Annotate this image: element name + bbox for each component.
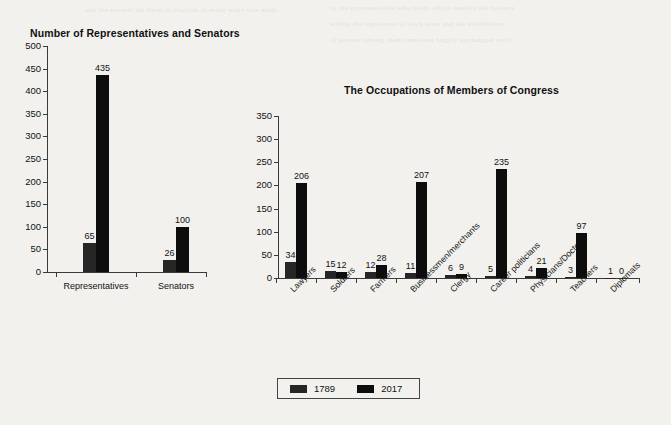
y-axis-tick-label: 150 <box>236 204 272 213</box>
bar-1789-career-politicians <box>485 276 496 278</box>
x-axis-tick <box>639 279 640 283</box>
plot-area: 05010015020025030035034206Lawyers1512Sol… <box>240 0 671 370</box>
y-axis-tick-label: 50 <box>5 244 41 253</box>
legend-label: 2017 <box>381 384 402 394</box>
x-axis-tick <box>56 273 57 277</box>
x-axis-tick <box>206 273 207 277</box>
y-axis-tick <box>43 272 47 273</box>
x-axis-tick <box>596 279 597 283</box>
bar-1789-farmers <box>365 272 376 278</box>
chart-occupations: The Occupations of Members of Congress 0… <box>240 0 671 370</box>
y-axis-tick <box>274 209 278 210</box>
bar-1789-representatives <box>83 243 96 272</box>
chart-representatives-senators: Number of Representatives and Senators 0… <box>0 0 240 300</box>
y-axis-tick-label: 350 <box>236 111 272 120</box>
y-axis-tick <box>43 159 47 160</box>
legend-swatch-icon <box>357 385 374 393</box>
x-axis-tick <box>556 279 557 283</box>
y-axis-tick-label: 400 <box>5 86 41 95</box>
y-axis-tick <box>274 185 278 186</box>
y-axis-tick-label: 350 <box>5 109 41 118</box>
y-axis-tick-label: 100 <box>236 227 272 236</box>
bar-value-label: 9 <box>450 263 474 272</box>
y-axis-tick-label: 0 <box>236 273 272 282</box>
y-axis-tick <box>43 91 47 92</box>
bar-2017-senators <box>176 227 189 272</box>
bar-value-label: 97 <box>570 222 594 231</box>
x-axis-tick <box>396 279 397 283</box>
bar-2017-lawyers <box>296 183 307 278</box>
x-axis-tick <box>516 279 517 283</box>
x-axis-tick <box>276 279 277 283</box>
y-axis-tick-label: 250 <box>5 154 41 163</box>
x-axis-tick <box>316 279 317 283</box>
y-axis-tick-label: 450 <box>5 64 41 73</box>
figure-canvas: and the several the form of election in … <box>0 0 671 425</box>
legend: 17892017 <box>277 378 420 399</box>
y-axis-tick <box>274 162 278 163</box>
y-axis <box>47 46 48 273</box>
y-axis-tick <box>274 139 278 140</box>
y-axis-tick-label: 300 <box>5 131 41 140</box>
x-axis <box>47 272 207 273</box>
y-axis-tick <box>43 227 47 228</box>
bar-2017-representatives <box>96 75 109 272</box>
y-axis-tick-label: 50 <box>236 250 272 259</box>
y-axis-tick-label: 200 <box>5 177 41 186</box>
legend-swatch-icon <box>290 385 307 393</box>
bar-value-label: 235 <box>490 158 514 167</box>
bar-1789-clergy <box>445 275 456 278</box>
y-axis-tick <box>43 114 47 115</box>
y-axis-tick <box>274 116 278 117</box>
y-axis-tick <box>43 136 47 137</box>
x-axis-tick <box>136 273 137 277</box>
bar-1789-teachers <box>565 277 576 278</box>
legend-item-2017[interactable]: 2017 <box>357 384 402 394</box>
legend-item-1789[interactable]: 1789 <box>290 384 335 394</box>
y-axis-tick-label: 150 <box>5 199 41 208</box>
y-axis-tick-label: 300 <box>236 134 272 143</box>
x-axis-category-label: Senators <box>126 281 226 291</box>
y-axis-tick <box>43 46 47 47</box>
y-axis-tick-label: 500 <box>5 41 41 50</box>
x-axis-tick <box>476 279 477 283</box>
bar-2017-career-politicians <box>496 169 507 278</box>
y-axis-tick <box>274 232 278 233</box>
y-axis-tick-label: 200 <box>236 180 272 189</box>
bar-1789-soldiers <box>325 271 336 278</box>
x-axis-tick <box>356 279 357 283</box>
legend-label: 1789 <box>314 384 335 394</box>
y-axis-tick <box>43 204 47 205</box>
y-axis-tick <box>43 69 47 70</box>
bar-1789-businessmen-merchants <box>405 273 416 278</box>
y-axis-tick-label: 0 <box>5 267 41 276</box>
bar-value-label: 28 <box>370 254 394 263</box>
bar-value-label: 435 <box>91 64 115 73</box>
y-axis-tick-label: 250 <box>236 157 272 166</box>
bar-1789-physicians-doctors <box>525 276 536 278</box>
x-axis-tick <box>436 279 437 283</box>
bar-value-label: 207 <box>410 171 434 180</box>
y-axis-tick <box>274 255 278 256</box>
bar-2017-businessmen-merchants <box>416 182 427 278</box>
bar-value-label: 206 <box>290 172 314 181</box>
y-axis-tick <box>43 249 47 250</box>
plot-area: 05010015020025030035040045050065435Repre… <box>0 0 240 300</box>
bar-1789-senators <box>163 260 176 272</box>
bar-value-label: 100 <box>171 216 195 225</box>
y-axis-tick-label: 100 <box>5 222 41 231</box>
bar-1789-lawyers <box>285 262 296 278</box>
y-axis-tick <box>43 182 47 183</box>
